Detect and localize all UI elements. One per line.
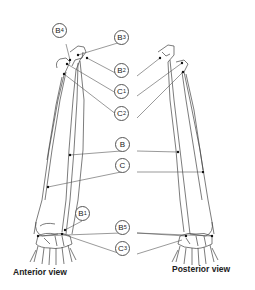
posterior-forearm: [158, 45, 218, 265]
anterior-forearm: [30, 46, 86, 265]
label-B5: B5: [115, 220, 130, 235]
label-letter: B: [117, 67, 122, 75]
label-C: C: [115, 158, 130, 173]
label-B3: B3: [114, 30, 129, 45]
posterior-view-caption: Posterior view: [172, 264, 230, 274]
label-subscript: 1: [123, 89, 126, 95]
label-letter: C: [118, 245, 124, 253]
label-letter: C: [120, 162, 126, 170]
label-C3: C3: [115, 241, 130, 256]
forearm-bones-diagram: B4 B3 B2 C1 C2 B C B1 B5 C3 Anterior vie…: [0, 0, 255, 290]
label-subscript: 5: [124, 225, 127, 231]
label-letter: B: [117, 34, 122, 42]
label-letter: C: [117, 110, 123, 118]
label-subscript: 3: [124, 246, 127, 252]
label-C1: C1: [114, 84, 129, 99]
label-letter: B: [118, 224, 123, 232]
label-letter: C: [117, 88, 123, 96]
label-subscript: 2: [123, 68, 126, 74]
label-B2: B2: [114, 63, 129, 78]
label-C2: C2: [114, 106, 129, 121]
label-B4: B4: [52, 23, 67, 38]
label-subscript: 4: [61, 28, 64, 34]
label-B: B: [115, 137, 130, 152]
label-letter: B: [78, 210, 83, 218]
label-subscript: 1: [84, 211, 87, 217]
anterior-view-caption: Anterior view: [13, 267, 67, 277]
label-subscript: 2: [123, 111, 126, 117]
label-subscript: 3: [123, 35, 126, 41]
label-letter: B: [120, 141, 125, 149]
label-B1: B1: [75, 206, 90, 221]
label-letter: B: [55, 27, 60, 35]
